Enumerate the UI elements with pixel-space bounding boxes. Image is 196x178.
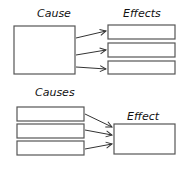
arrow-icon xyxy=(85,114,112,127)
effect-box-2 xyxy=(108,43,175,57)
cause-box xyxy=(14,26,75,74)
effect-box xyxy=(114,124,175,154)
cause-effect-diagram: Cause Effects Causes Effect xyxy=(0,0,196,178)
arrow-icon xyxy=(76,31,106,38)
arrow-icon xyxy=(85,144,112,149)
cause-box-3 xyxy=(17,141,84,155)
effect-box-1 xyxy=(108,25,175,39)
effect-box-3 xyxy=(108,61,175,74)
effect-label: Effect xyxy=(127,110,160,123)
arrow-icon xyxy=(76,50,106,55)
arrow-icon xyxy=(85,130,112,135)
effects-label: Effects xyxy=(123,7,161,20)
many-to-one-section: Causes Effect xyxy=(17,86,175,155)
one-to-many-section: Cause Effects xyxy=(14,7,175,74)
cause-box-1 xyxy=(17,107,84,121)
cause-box-2 xyxy=(17,124,84,138)
causes-label: Causes xyxy=(35,86,75,99)
arrow-icon xyxy=(76,67,106,69)
cause-label: Cause xyxy=(37,7,71,20)
